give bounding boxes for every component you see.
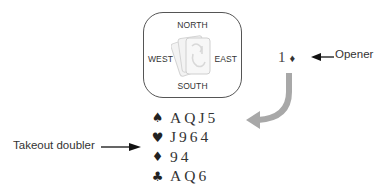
takeout-arrow-icon — [101, 142, 141, 152]
hand-row-spades: ♠ AQJ5 — [145, 108, 218, 128]
diamond-icon: ♦ — [145, 149, 170, 164]
east-label: EAST — [214, 54, 237, 64]
south-label: SOUTH — [144, 81, 241, 91]
club-icon: ♣ — [145, 169, 170, 184]
hand-row-clubs: ♣ AQ6 — [145, 167, 218, 187]
opener-arrow-icon — [311, 52, 335, 62]
hand-row-hearts: ♥ J964 — [145, 128, 218, 148]
diamond-icon: ♦ — [290, 52, 296, 64]
curved-arrow-icon — [244, 70, 300, 132]
north-label: NORTH — [144, 20, 241, 30]
diamond-cards: 94 — [170, 148, 192, 166]
cards-icon — [171, 32, 217, 80]
spade-icon: ♠ — [145, 110, 170, 125]
opening-bid: 1♦ — [278, 49, 295, 66]
takeout-doubler-label: Takeout doubler — [13, 139, 95, 151]
takeout-doubler-hand: ♠ AQJ5 ♥ J964 ♦ 94 ♣ AQ6 — [145, 108, 218, 186]
spade-cards: AQJ5 — [170, 109, 218, 127]
opener-label: Opener — [335, 48, 373, 60]
bridge-table: NORTH WEST EAST SOUTH — [143, 12, 242, 98]
hand-row-diamonds: ♦ 94 — [145, 147, 218, 167]
heart-cards: J964 — [170, 128, 211, 146]
bid-level: 1 — [278, 49, 286, 65]
club-cards: AQ6 — [170, 167, 209, 185]
west-label: WEST — [148, 54, 173, 64]
heart-icon: ♥ — [145, 130, 170, 145]
